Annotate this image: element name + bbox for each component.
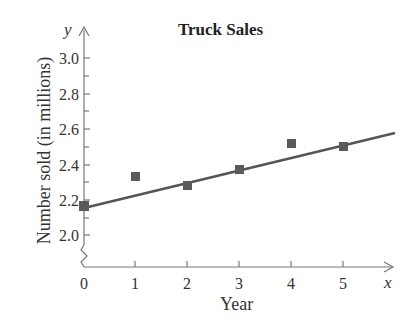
x-ticks (135, 261, 343, 267)
chart-plot: 3.0 2.8 2.6 2.4 2.2 2.0 0 1 2 3 4 5 (0, 0, 417, 329)
x-axis-variable: x (384, 273, 392, 293)
y-tick-label: 2.4 (59, 157, 79, 174)
x-tick-label: 3 (235, 275, 243, 292)
data-point (339, 142, 348, 151)
x-axis-label: Year (220, 294, 253, 315)
truck-sales-chart: 3.0 2.8 2.6 2.4 2.2 2.0 0 1 2 3 4 5 Truc… (0, 0, 417, 329)
y-tick-label: 2.8 (59, 86, 79, 103)
y-axis-variable: y (64, 20, 72, 40)
x-tick-label: 1 (131, 275, 139, 292)
y-tick-label: 2.0 (59, 227, 79, 244)
x-tick-labels: 0 1 2 3 4 5 (80, 275, 347, 292)
data-point (287, 139, 296, 148)
y-axis-label: Number sold (in millions) (34, 51, 55, 251)
data-point (79, 201, 89, 211)
data-point (183, 181, 192, 190)
x-tick-label: 0 (80, 275, 88, 292)
x-tick-label: 5 (339, 275, 347, 292)
x-tick-label: 4 (287, 275, 295, 292)
y-tick-labels: 3.0 2.8 2.6 2.4 2.2 2.0 (59, 50, 79, 244)
chart-title: Truck Sales (178, 20, 263, 40)
y-tick-label: 2.6 (59, 121, 79, 138)
data-point (235, 165, 244, 174)
data-point (131, 172, 140, 181)
x-tick-label: 2 (183, 275, 191, 292)
y-tick-label: 3.0 (59, 50, 79, 67)
y-tick-label: 2.2 (59, 192, 79, 209)
